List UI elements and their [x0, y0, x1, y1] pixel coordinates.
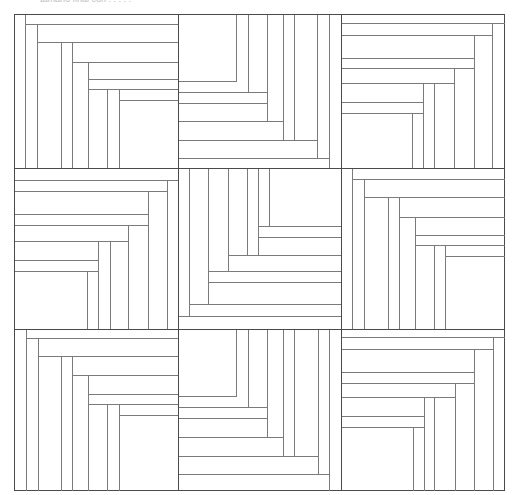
- quilt-block-r3c2: [179, 330, 342, 491]
- quilt-diagram: [0, 0, 515, 495]
- quilt-block-r3c1: [15, 330, 179, 491]
- quilt-block-r2c1: [15, 169, 179, 330]
- block-border: [15, 330, 179, 491]
- quilt-block-r2c2: [179, 169, 342, 330]
- quilt-block-r1c1: [15, 15, 179, 169]
- block-border: [342, 330, 505, 491]
- quilt-block-r3c3: [342, 330, 505, 491]
- quilt-block-r2c3: [342, 169, 505, 330]
- quilt-block-r1c2: [179, 15, 342, 169]
- quilt-block-r1c3: [342, 15, 505, 169]
- block-border: [342, 169, 505, 330]
- block-border: [179, 169, 342, 330]
- block-border: [15, 15, 179, 169]
- block-border: [15, 169, 179, 330]
- block-border: [179, 330, 342, 491]
